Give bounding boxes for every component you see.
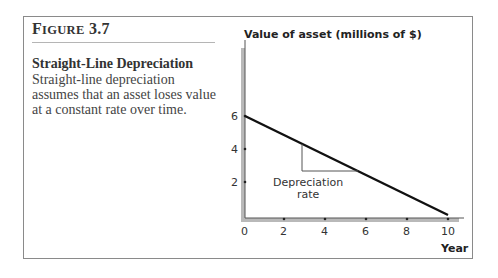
y-tick-4: 4 xyxy=(231,143,238,156)
x-tick-10: 10 xyxy=(441,225,455,238)
depreciation-chart: Value of asset (millions of $) 6 4 2 0 2… xyxy=(0,0,498,278)
y-tick-2: 2 xyxy=(231,176,238,189)
x-tick-6: 6 xyxy=(362,225,369,238)
x-axis-shadow xyxy=(241,218,459,222)
y-axis-shadow xyxy=(241,48,245,221)
x-tick-8: 8 xyxy=(403,225,410,238)
x-tick-0: 0 xyxy=(241,225,248,238)
annotation-rate: rate xyxy=(297,188,320,201)
y-axis-title: Value of asset (millions of $) xyxy=(244,28,422,41)
x-tick-2: 2 xyxy=(280,225,287,238)
x-tick-4: 4 xyxy=(321,225,328,238)
x-axis-title: Year xyxy=(440,242,469,255)
depreciation-line xyxy=(245,116,448,215)
y-tick-6: 6 xyxy=(231,110,238,123)
